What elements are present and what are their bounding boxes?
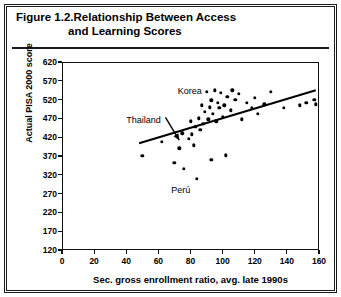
y-axis-label: Actual PISA 2000 score: [24, 0, 34, 188]
y-tick-mark: [58, 231, 62, 232]
x-tick-mark: [286, 250, 287, 254]
y-tick-label-170: 170: [17, 227, 57, 235]
y-tick-label-620: 620: [17, 58, 57, 66]
x-axis-label: Sec. gross enrollment ratio, avg. late 1…: [62, 274, 319, 285]
y-tick-label-320: 320: [17, 171, 57, 179]
y-tick-label-570: 570: [17, 77, 57, 85]
chart-plot-area: 120170220270320370420470520570620 020406…: [0, 0, 341, 297]
y-tick-label-520: 520: [17, 96, 57, 104]
y-tick-mark: [58, 155, 62, 156]
y-tick-mark: [58, 118, 62, 119]
y-tick-label-220: 220: [17, 208, 57, 216]
y-tick-label-470: 470: [17, 114, 57, 122]
x-tick-mark: [318, 250, 319, 254]
x-tick-mark: [158, 250, 159, 254]
y-tick-mark: [58, 174, 62, 175]
y-tick-mark: [58, 137, 62, 138]
figure-container: Figure 1.2. Relationship Between Access …: [0, 0, 341, 297]
x-tick-mark: [190, 250, 191, 254]
x-tick-mark: [94, 250, 95, 254]
x-tick-mark: [61, 250, 62, 254]
y-tick-mark: [58, 61, 62, 62]
y-tick-label-420: 420: [17, 133, 57, 141]
y-tick-mark: [58, 80, 62, 81]
y-tick-mark: [58, 212, 62, 213]
x-tick-mark: [254, 250, 255, 254]
y-tick-label-270: 270: [17, 190, 57, 198]
annotation-per: Perú: [171, 185, 190, 195]
x-tick-label-160: 160: [299, 257, 339, 266]
y-tick-label-120: 120: [17, 246, 57, 254]
annotation-korea: Korea: [178, 86, 202, 96]
y-tick-mark: [58, 99, 62, 100]
y-tick-mark: [58, 193, 62, 194]
x-tick-mark: [222, 250, 223, 254]
y-tick-label-370: 370: [17, 152, 57, 160]
x-tick-mark: [126, 250, 127, 254]
annotation-thailand: Thailand: [126, 115, 161, 125]
